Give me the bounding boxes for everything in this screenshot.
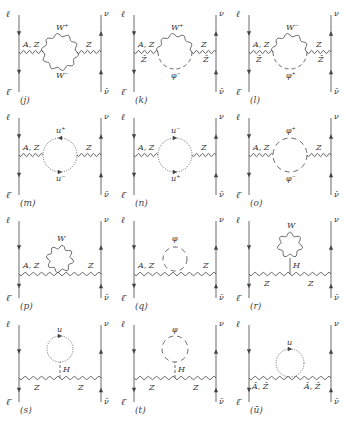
antineutrino-label: ν̄ — [334, 294, 339, 302]
ghost-loop — [158, 138, 192, 172]
scalar-loop-bottom — [273, 52, 307, 69]
diagram-r: ℓℓ̄νν̄(r)WHZZ — [230, 206, 345, 309]
lepton-label: ℓ — [236, 10, 240, 18]
antineutrino-label: ν̄ — [219, 88, 224, 96]
left-boson-sublabel: Ẑ — [256, 56, 262, 64]
w-loop — [46, 245, 73, 272]
neutrino-label: ν — [219, 113, 224, 121]
fermion-arrow-icon — [17, 31, 21, 35]
right-boson-label: Z — [201, 41, 207, 49]
fermion-arrow-icon — [17, 70, 21, 74]
neutrino-label: ν — [104, 216, 109, 224]
fermion-arrow-icon — [132, 70, 136, 74]
left-boson-label: A, Z — [138, 41, 154, 49]
fermion-arrow-icon — [99, 388, 103, 392]
diagram-t: ℓℓ̄νν̄(t)φHZZ — [115, 310, 230, 413]
left-boson-sublabel: Ẑ — [141, 56, 147, 64]
antilepton-label: ℓ̄ — [236, 294, 240, 302]
boson-line-right — [192, 50, 216, 53]
left-boson-label: A, Z — [253, 144, 269, 152]
right-boson-label: Z — [86, 144, 92, 152]
boson-line-left — [134, 153, 158, 156]
lepton-label: ℓ — [121, 216, 125, 224]
antineutrino-label: ν̄ — [104, 191, 109, 199]
fermion-arrow-icon — [329, 388, 333, 392]
lepton-label: ℓ — [121, 320, 125, 328]
neutrino-label: ν — [104, 113, 109, 121]
fermion-arrow-icon — [132, 173, 136, 177]
right-boson-sublabel: Ẑ — [318, 56, 324, 64]
w-loop-bottom — [43, 52, 78, 70]
ghost-arrow-icon — [58, 136, 62, 140]
fermion-arrow-icon — [17, 245, 21, 249]
right-boson-label: Â, Ẑ — [304, 383, 320, 391]
diagram-q: ℓℓ̄νν̄(q)φA, ZZ — [115, 206, 230, 309]
scalar-loop — [273, 138, 307, 172]
fermion-arrow-icon — [99, 349, 103, 353]
loop-label: u — [287, 339, 292, 347]
loop-bottom-label: φ⁺ — [286, 72, 296, 80]
ghost-loop — [43, 138, 77, 172]
right-boson-label: Z — [316, 41, 322, 49]
diagram-l: ℓℓ̄νν̄(l)A, ZZẐẐW⁻φ⁺ — [230, 0, 345, 103]
antilepton-label: ℓ̄ — [6, 294, 10, 302]
left-boson-label: A, Z — [23, 262, 39, 270]
fermion-arrow-icon — [329, 284, 333, 288]
loop-label: W — [57, 235, 65, 243]
antilepton-label: ℓ̄ — [6, 191, 10, 199]
boson-line-left — [19, 153, 43, 156]
right-boson-label: Z — [316, 144, 322, 152]
ghost-arrow-icon — [58, 334, 62, 338]
boson-line-right — [307, 50, 331, 53]
left-boson-label: Z — [34, 384, 40, 392]
fermion-arrow-icon — [247, 70, 251, 74]
fermion-arrow-icon — [17, 173, 21, 177]
loop-top-label: u⁻ — [171, 127, 180, 135]
loop-label: u — [57, 326, 62, 334]
antilepton-label: ℓ̄ — [121, 398, 125, 406]
neutrino-label: ν — [334, 320, 339, 328]
neutrino-label: ν — [219, 10, 224, 18]
fermion-arrow-icon — [214, 134, 218, 138]
antilepton-label: ℓ̄ — [6, 398, 10, 406]
boson-line-left — [249, 50, 273, 53]
neutrino-label: ν — [104, 320, 109, 328]
diagram-graphic — [0, 206, 115, 309]
fermion-arrow-icon — [329, 70, 333, 74]
higgs-label: H — [63, 366, 70, 374]
loop-label: φ — [172, 235, 178, 243]
lepton-label: ℓ — [6, 320, 10, 328]
antineutrino-label: ν̄ — [334, 398, 339, 406]
fermion-arrow-icon — [99, 134, 103, 138]
lepton-label: ℓ — [121, 10, 125, 18]
fermion-arrow-icon — [214, 173, 218, 177]
boson-line — [19, 272, 101, 275]
diagram-o: ℓℓ̄νν̄(o)A, ZZφ⁺φ⁻ — [230, 103, 345, 206]
diagram-graphic — [0, 103, 115, 206]
w-loop — [277, 232, 302, 256]
fermion-arrow-icon — [99, 245, 103, 249]
neutrino-label: ν — [104, 10, 109, 18]
fermion-arrow-icon — [247, 134, 251, 138]
diagram-k: ℓℓ̄νν̄(k)A, ZZẐẐW⁺φ⁻ — [115, 0, 230, 103]
left-boson-label: A, Z — [253, 41, 269, 49]
right-boson-label: Z — [308, 280, 314, 288]
antilepton-label: ℓ̄ — [121, 88, 125, 96]
boson-line — [134, 272, 216, 275]
fermion-arrow-icon — [214, 284, 218, 288]
left-boson-label: Â, Ẑ — [252, 383, 268, 391]
fermion-arrow-icon — [132, 388, 136, 392]
loop-top-label: W⁺ — [171, 24, 183, 32]
w-loop-top — [42, 34, 77, 52]
diagram-tag: (s) — [20, 405, 32, 415]
lepton-label: ℓ — [236, 216, 240, 224]
diagram-graphic — [230, 0, 345, 103]
diagram-j: ℓℓ̄νν̄(j)A, ZZW⁺W⁻ — [0, 0, 115, 103]
fermion-arrow-icon — [214, 31, 218, 35]
fermion-arrow-icon — [99, 284, 103, 288]
diagram-tag: (t) — [135, 405, 146, 415]
fermion-arrow-icon — [99, 31, 103, 35]
antineutrino-label: ν̄ — [219, 398, 224, 406]
right-boson-label: Z — [78, 384, 84, 392]
fermion-arrow-icon — [214, 388, 218, 392]
